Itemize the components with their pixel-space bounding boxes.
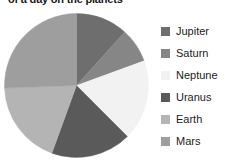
legend-item-label: Earth — [176, 114, 202, 125]
legend-item-saturn[interactable]: Saturn — [161, 42, 232, 64]
legend-swatch-icon — [161, 27, 170, 36]
legend-item-label: Neptune — [176, 70, 218, 81]
legend-item-label: Saturn — [176, 48, 208, 59]
pie-slice-group — [4, 13, 148, 157]
chart-title: of a day on the planets — [8, 0, 158, 5]
legend-item-label: Jupiter — [176, 26, 209, 37]
legend-item-mars[interactable]: Mars — [161, 130, 232, 152]
legend-item-uranus[interactable]: Uranus — [161, 86, 232, 108]
legend-swatch-icon — [161, 115, 170, 124]
pie-chart-figure: of a day on the planets JupiterSaturnNep… — [0, 0, 232, 162]
legend-item-label: Mars — [176, 136, 200, 147]
pie-svg — [4, 13, 149, 158]
legend-swatch-icon — [161, 137, 170, 146]
legend-item-jupiter[interactable]: Jupiter — [161, 20, 232, 42]
legend-swatch-icon — [161, 49, 170, 58]
pie-plot-area — [4, 13, 149, 158]
legend-swatch-icon — [161, 71, 170, 80]
legend-item-label: Uranus — [176, 92, 211, 103]
legend-swatch-icon — [161, 93, 170, 102]
pie-slice-mars[interactable] — [4, 13, 76, 88]
chart-legend: JupiterSaturnNeptuneUranusEarthMars — [161, 20, 232, 152]
legend-item-earth[interactable]: Earth — [161, 108, 232, 130]
legend-item-neptune[interactable]: Neptune — [161, 64, 232, 86]
